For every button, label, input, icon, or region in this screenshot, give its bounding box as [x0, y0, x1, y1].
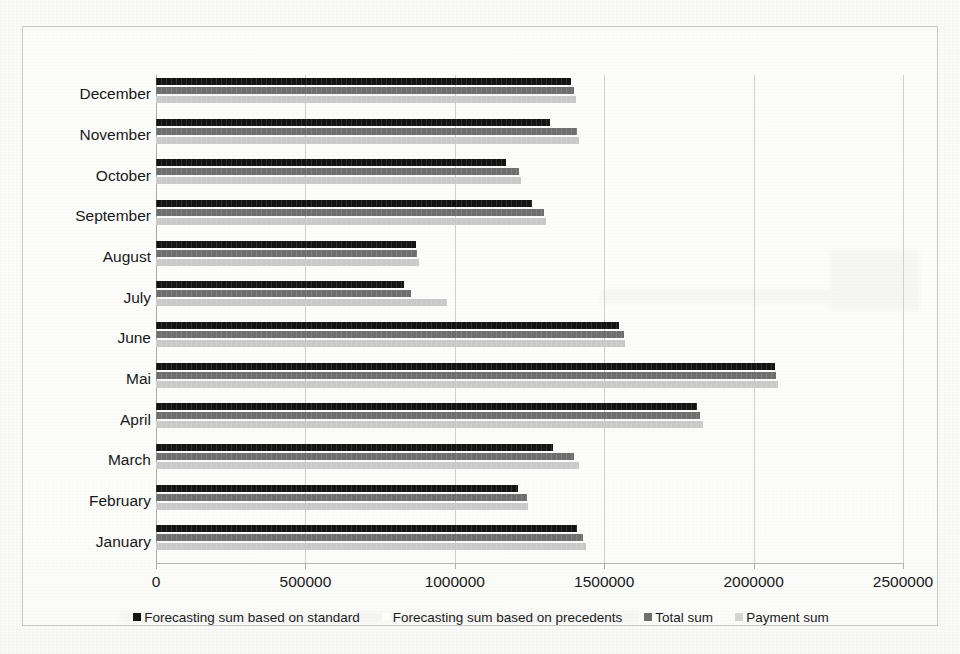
- bar-group-january: [156, 522, 903, 563]
- bar-august-series-1: [156, 250, 417, 257]
- bar-july-series-2: [156, 299, 447, 306]
- bar-group-february: [156, 482, 903, 523]
- bar-group-december: [156, 75, 903, 116]
- x-tick-label-2500000: 2500000: [873, 573, 933, 591]
- bar-mai-series-0: [156, 363, 775, 370]
- legend-swatch-icon-1: [382, 613, 390, 621]
- x-axis-line: [156, 563, 904, 564]
- bar-group-april: [156, 400, 903, 441]
- bar-november-series-2: [156, 137, 579, 144]
- bar-group-november: [156, 116, 903, 157]
- bar-october-series-0: [156, 159, 506, 166]
- bar-january-series-1: [156, 534, 583, 541]
- bar-july-series-1: [156, 290, 411, 297]
- legend-label-3: Payment sum: [746, 610, 829, 625]
- bar-february-series-0: [156, 485, 518, 492]
- legend-swatch-icon-3: [735, 613, 743, 621]
- bar-april-series-1: [156, 412, 700, 419]
- bar-july-series-0: [156, 281, 404, 288]
- y-label-april: April: [33, 411, 151, 429]
- tick-mark-2000000: [754, 563, 755, 569]
- y-label-january: January: [33, 533, 151, 551]
- tick-mark-0: [156, 563, 157, 569]
- tick-mark-2500000: [903, 563, 904, 569]
- bar-june-series-0: [156, 322, 619, 329]
- legend-item-2[interactable]: Total sum: [644, 610, 713, 625]
- tick-mark-1000000: [455, 563, 456, 569]
- x-tick-label-1500000: 1500000: [574, 573, 634, 591]
- bar-september-series-2: [156, 218, 546, 225]
- x-axis-tick-labels: 05000001000000150000020000002500000: [23, 573, 939, 599]
- bar-april-series-0: [156, 403, 697, 410]
- bar-january-series-2: [156, 543, 586, 550]
- bar-group-june: [156, 319, 903, 360]
- bar-group-october: [156, 156, 903, 197]
- y-label-june: June: [33, 329, 151, 347]
- y-label-november: November: [33, 126, 151, 144]
- x-tick-label-0: 0: [152, 573, 161, 591]
- y-label-december: December: [33, 85, 151, 103]
- legend-label-0: Forecasting sum based on standard: [144, 610, 359, 625]
- x-tick-label-500000: 500000: [280, 573, 332, 591]
- y-label-july: July: [33, 289, 151, 307]
- legend-item-0[interactable]: Forecasting sum based on standard: [133, 610, 359, 625]
- y-label-mai: Mai: [33, 370, 151, 388]
- gridline-2500000: [903, 75, 904, 563]
- chart-frame: DecemberNovemberOctoberSeptemberAugustJu…: [22, 26, 938, 626]
- bar-september-series-1: [156, 209, 544, 216]
- legend-label-1: Forecasting sum based on precedents: [393, 610, 623, 625]
- legend-swatch-icon-2: [644, 613, 652, 621]
- bar-group-august: [156, 238, 903, 279]
- bar-september-series-0: [156, 200, 532, 207]
- bar-june-series-1: [156, 331, 624, 338]
- bar-mai-series-1: [156, 372, 776, 379]
- y-axis-category-labels: DecemberNovemberOctoberSeptemberAugustJu…: [31, 75, 151, 563]
- bar-march-series-1: [156, 453, 574, 460]
- bar-august-series-0: [156, 241, 416, 248]
- y-label-march: March: [33, 451, 151, 469]
- y-label-september: September: [33, 207, 151, 225]
- bar-february-series-2: [156, 503, 528, 510]
- bar-april-series-2: [156, 421, 703, 428]
- bar-november-series-0: [156, 119, 550, 126]
- legend-label-2: Total sum: [655, 610, 713, 625]
- chart-legend: Forecasting sum based on standardForecas…: [23, 605, 939, 629]
- bar-march-series-2: [156, 462, 579, 469]
- bar-october-series-1: [156, 168, 519, 175]
- bar-group-march: [156, 441, 903, 482]
- bar-march-series-0: [156, 444, 553, 451]
- bar-mai-series-2: [156, 381, 778, 388]
- bar-october-series-2: [156, 177, 521, 184]
- bar-group-july: [156, 278, 903, 319]
- y-label-february: February: [33, 492, 151, 510]
- bar-february-series-1: [156, 494, 527, 501]
- legend-item-3[interactable]: Payment sum: [735, 610, 829, 625]
- bar-january-series-0: [156, 525, 577, 532]
- bar-group-september: [156, 197, 903, 238]
- y-label-october: October: [33, 167, 151, 185]
- x-tick-label-2000000: 2000000: [723, 573, 783, 591]
- legend-item-1[interactable]: Forecasting sum based on precedents: [382, 610, 623, 625]
- tick-mark-1500000: [604, 563, 605, 569]
- bar-june-series-2: [156, 340, 625, 347]
- legend-swatch-icon-0: [133, 613, 141, 621]
- bar-december-series-1: [156, 87, 574, 94]
- bar-group-mai: [156, 360, 903, 401]
- bar-november-series-1: [156, 128, 577, 135]
- x-tick-label-1000000: 1000000: [425, 573, 485, 591]
- plot-area: [156, 75, 903, 563]
- bar-december-series-0: [156, 78, 571, 85]
- y-label-august: August: [33, 248, 151, 266]
- bar-december-series-2: [156, 96, 576, 103]
- bar-august-series-2: [156, 259, 419, 266]
- tick-mark-500000: [305, 563, 306, 569]
